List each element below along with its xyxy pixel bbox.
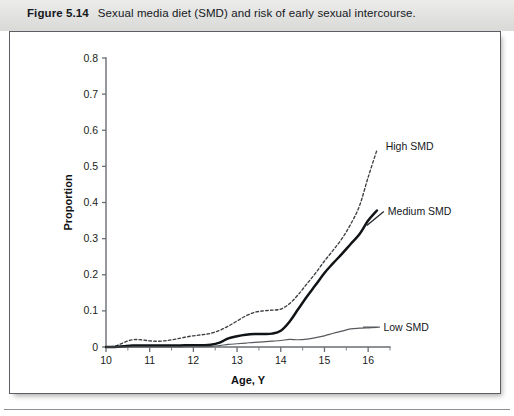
- figure-caption-text: Sexual media diet (SMD) and risk of earl…: [98, 7, 416, 19]
- figure-page: Figure 5.14Sexual media diet (SMD) and r…: [0, 0, 514, 416]
- figure-caption-band: Figure 5.14Sexual media diet (SMD) and r…: [0, 0, 514, 31]
- figure-frame: [9, 31, 501, 394]
- figure-caption: Figure 5.14Sexual media diet (SMD) and r…: [27, 7, 416, 19]
- figure-number: Figure 5.14: [27, 7, 89, 19]
- page-bottom-rule: [4, 409, 510, 410]
